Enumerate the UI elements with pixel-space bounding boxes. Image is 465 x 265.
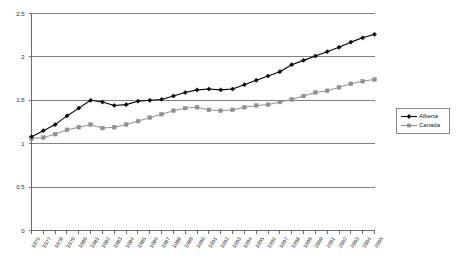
data-point-marker [254,78,258,82]
data-point-marker [325,89,329,93]
data-point-marker [207,108,211,112]
data-point-marker [160,97,164,101]
legend-diamond-icon [400,112,418,121]
y-axis-tick-label: 2.5 [7,11,25,17]
data-point-marker [53,132,57,136]
data-point-marker [243,105,247,109]
data-point-marker [112,125,116,129]
data-point-marker [183,90,187,94]
data-point-marker [278,100,282,104]
data-point-marker [301,58,305,62]
chart-legend: AlbertaCanada [396,108,450,134]
data-point-marker [136,119,140,123]
data-point-marker [124,123,128,127]
data-point-marker [183,106,187,110]
data-point-marker [361,36,365,40]
data-point-marker [254,104,258,108]
data-point-marker [349,40,353,44]
legend-item-canada[interactable]: Canada [400,121,445,130]
data-point-marker [124,103,128,107]
legend-item-alberta[interactable]: Alberta [400,112,445,121]
data-point-marker [195,105,199,109]
data-point-marker [171,94,175,98]
data-point-marker [207,87,211,91]
data-point-marker [148,116,152,120]
y-axis-tick-label: 2 [7,54,25,60]
y-axis-tick-label: 1 [7,141,25,147]
legend-label: Canada [418,121,440,130]
data-point-marker [77,125,81,129]
data-point-marker [373,78,377,82]
y-axis-tick-label: 0.5 [7,184,25,190]
data-point-marker [41,129,45,133]
data-point-marker [41,136,45,140]
data-point-marker [313,54,317,58]
data-point-marker [148,98,152,102]
data-point-marker [302,94,306,98]
series-canada [30,78,377,141]
data-point-marker [172,109,176,113]
data-point-marker [195,88,199,92]
line-chart: 00.511.522.5 197619771978197919801981198… [0,0,465,265]
data-point-marker [337,85,341,89]
y-axis-tick-label: 1.5 [7,97,25,103]
data-point-marker [361,79,365,83]
data-point-marker [219,109,223,113]
data-point-marker [242,83,246,87]
data-point-marker [65,128,69,132]
data-point-marker [231,108,235,112]
data-point-marker [160,112,164,116]
data-point-marker [136,99,140,103]
legend-square-icon [400,121,418,130]
data-point-marker [372,32,376,36]
y-axis-tick-label: 0 [7,228,25,234]
data-point-marker [266,74,270,78]
data-point-marker [337,45,341,49]
data-point-marker [101,126,105,130]
data-point-marker [219,88,223,92]
data-point-marker [290,98,294,102]
series-line [32,79,375,138]
data-point-marker [89,123,93,127]
data-point-marker [349,82,353,86]
data-point-marker [266,103,270,107]
data-point-marker [313,91,317,95]
series-alberta [29,32,376,139]
legend-label: Alberta [418,112,438,121]
data-point-marker [112,103,116,107]
data-point-marker [230,87,234,91]
data-point-marker [325,50,329,54]
series-line [32,34,375,136]
